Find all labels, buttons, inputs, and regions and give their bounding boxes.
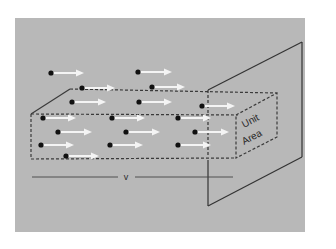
particle-dot-icon bbox=[109, 115, 114, 120]
diagram-panel bbox=[15, 18, 305, 232]
particle-dot-icon bbox=[63, 153, 68, 158]
particle-dot-icon bbox=[175, 115, 180, 120]
particle-dot-icon bbox=[199, 103, 204, 108]
particle-dot-icon bbox=[123, 129, 128, 134]
particle-dot-icon bbox=[107, 142, 112, 147]
flux-diagram: Unit Area v bbox=[0, 0, 336, 249]
particle-dot-icon bbox=[48, 70, 53, 75]
particle-dot-icon bbox=[55, 129, 60, 134]
particle-dot-icon bbox=[135, 69, 140, 74]
particle-dot-icon bbox=[69, 99, 74, 104]
particle-dot-icon bbox=[38, 142, 43, 147]
velocity-label: v bbox=[124, 172, 129, 182]
particle-dot-icon bbox=[192, 129, 197, 134]
particle-dot-icon bbox=[175, 142, 180, 147]
particle-dot-icon bbox=[136, 99, 141, 104]
particle-dot-icon bbox=[40, 115, 45, 120]
particle-dot-icon bbox=[79, 85, 84, 90]
particle-dot-icon bbox=[149, 84, 154, 89]
